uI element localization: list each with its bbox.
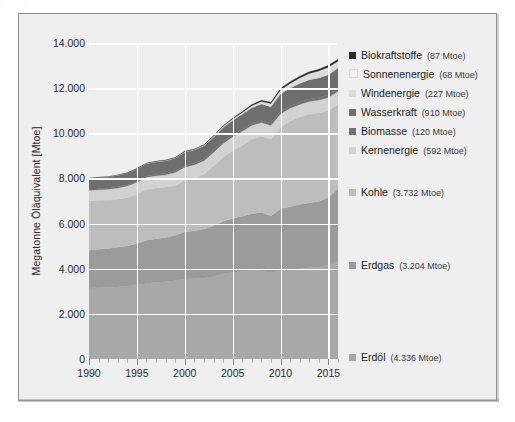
legend-value: (3.204 Mtoe)	[399, 261, 450, 271]
x-axis-tick-label: 1990	[77, 367, 100, 379]
legend-value: (87 Mtoe)	[427, 51, 466, 61]
legend-label: Kohle	[361, 186, 388, 198]
x-axis-tick-minor	[261, 359, 262, 363]
x-axis-tick-minor	[108, 359, 109, 363]
gridline-vertical	[233, 43, 235, 359]
legend-value: (592 Mtoe)	[423, 146, 467, 156]
gridline-vertical	[185, 43, 187, 359]
legend-swatch-icon	[349, 69, 358, 78]
y-axis-tick-label: 6.000	[59, 218, 85, 230]
x-axis-tick-minor	[252, 359, 253, 363]
x-axis-tick-minor	[204, 359, 205, 363]
x-axis-tick-minor	[99, 359, 100, 363]
x-axis-tick-minor	[194, 359, 195, 363]
x-axis-tick-label: 1995	[125, 367, 148, 379]
gridline-vertical	[281, 43, 283, 359]
x-axis-tick-minor	[214, 359, 215, 363]
y-axis-tick-label: 4.000	[59, 263, 85, 275]
x-axis-tick-minor	[271, 359, 272, 363]
x-axis-tick-minor	[338, 359, 339, 363]
legend-value: (120 Mtoe)	[412, 127, 456, 137]
legend-swatch-icon	[349, 354, 356, 361]
x-axis: 199019952000200520102015	[89, 359, 338, 387]
page-edge-shadow-right	[496, 14, 499, 402]
gridline-horizontal	[89, 43, 338, 45]
chart-legend: Biokraftstoffe(87 Mtoe)Sonnenenergie(68 …	[349, 49, 495, 379]
gridline-horizontal	[89, 133, 338, 135]
x-axis-tick-minor	[175, 359, 176, 363]
gridline-vertical	[328, 43, 330, 359]
legend-label: Biomasse	[361, 125, 407, 137]
y-axis-tick-label: 8.000	[59, 172, 85, 184]
x-axis-tick-label: 2005	[221, 367, 244, 379]
legend-value: (68 Mtoe)	[439, 70, 478, 80]
legend-value: (910 Mtoe)	[422, 108, 466, 118]
x-axis-tick-label: 2010	[269, 367, 292, 379]
page-edge-shadow-bottom	[18, 399, 499, 402]
legend-item-kernenergie: Kernenergie(592 Mtoe)	[349, 144, 467, 156]
legend-value: (4.336 Mtoe)	[391, 353, 442, 363]
x-axis-tick-major	[89, 359, 90, 365]
legend-item-sonnenenergie: Sonnenenergie(68 Mtoe)	[349, 68, 478, 80]
gridline-horizontal	[89, 178, 338, 180]
stacked-area-chart	[89, 43, 338, 359]
legend-item-kohle: Kohle(3.732 Mtoe)	[349, 186, 444, 198]
x-axis-tick-minor	[127, 359, 128, 363]
x-axis-tick-label: 2000	[173, 367, 196, 379]
x-axis-tick-major	[185, 359, 186, 365]
legend-item-wasserkraft: Wasserkraft(910 Mtoe)	[349, 106, 465, 118]
chart-figure-frame: Megatonne Öläquivalent [Mtoe] 02.0004.00…	[18, 13, 497, 401]
y-axis-tick-label: 14.000	[53, 37, 85, 49]
legend-swatch-icon	[349, 147, 356, 154]
page-text-fragment: · , , , · ,	[0, 0, 515, 7]
x-axis-tick-minor	[300, 359, 301, 363]
legend-label: Erdgas	[361, 259, 394, 271]
x-axis-tick-minor	[166, 359, 167, 363]
figure-stage: · , , , · , Megatonne Öläquivalent [Mtoe…	[0, 0, 515, 422]
legend-item-erdgas: Erdgas(3.204 Mtoe)	[349, 259, 450, 271]
x-axis-tick-major	[328, 359, 329, 365]
x-axis-tick-minor	[319, 359, 320, 363]
gridline-horizontal	[89, 314, 338, 316]
plot-area	[89, 43, 338, 359]
x-axis-tick-major	[281, 359, 282, 365]
legend-label: Windenergie	[361, 87, 420, 99]
legend-swatch-icon	[349, 262, 356, 269]
legend-item-windenergie: Windenergie(227 Mtoe)	[349, 87, 468, 99]
y-axis-tick-label: 12.000	[53, 82, 85, 94]
legend-label: Sonnenenergie	[363, 68, 434, 80]
legend-item-biomasse: Biomasse(120 Mtoe)	[349, 125, 456, 137]
gridline-horizontal	[89, 88, 338, 90]
x-axis-tick-minor	[290, 359, 291, 363]
gridline-horizontal	[89, 224, 338, 226]
legend-label: Biokraftstoffe	[361, 49, 422, 61]
x-axis-tick-label: 2015	[317, 367, 340, 379]
legend-swatch-icon	[349, 90, 356, 97]
legend-label: Kernenergie	[361, 144, 418, 156]
y-axis-tick-label: 10.000	[53, 127, 85, 139]
legend-swatch-icon	[349, 189, 356, 196]
legend-label: Erdöl	[361, 351, 386, 363]
legend-label: Wasserkraft	[361, 106, 417, 118]
gridline-horizontal	[89, 269, 338, 271]
x-axis-tick-minor	[223, 359, 224, 363]
x-axis-tick-minor	[146, 359, 147, 363]
x-axis-tick-minor	[118, 359, 119, 363]
y-axis-tick-label: 2.000	[59, 308, 85, 320]
legend-swatch-icon	[349, 52, 356, 59]
y-axis-tick-labels: 02.0004.0006.0008.00010.00012.00014.000	[19, 43, 85, 359]
legend-swatch-icon	[349, 109, 356, 116]
x-axis-tick-minor	[242, 359, 243, 363]
legend-item-biokraftstoffe: Biokraftstoffe(87 Mtoe)	[349, 49, 466, 61]
legend-swatch-icon	[349, 128, 356, 135]
x-axis-tick-major	[137, 359, 138, 365]
legend-value: (227 Mtoe)	[425, 89, 469, 99]
y-axis-tick-label: 0	[79, 353, 85, 365]
legend-value: (3.732 Mtoe)	[393, 188, 444, 198]
gridline-vertical	[137, 43, 139, 359]
x-axis-tick-minor	[156, 359, 157, 363]
x-axis-tick-major	[233, 359, 234, 365]
x-axis-tick-minor	[309, 359, 310, 363]
legend-item-erdl: Erdöl(4.336 Mtoe)	[349, 351, 442, 363]
